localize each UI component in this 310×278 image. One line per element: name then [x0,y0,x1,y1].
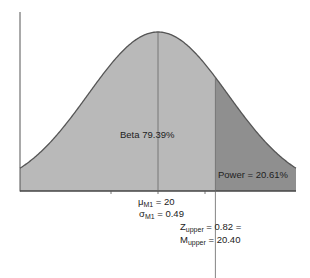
beta-label: Beta 79.39% [120,130,174,140]
power-label: Power = 20.61% [218,170,288,180]
mean-label: μM1 = 20 [138,197,175,208]
sd-label: σM1 = 0.49 [139,209,184,220]
m-upper-label: Mupper = 20.40 [180,235,240,246]
z-upper-label: Zupper = 0.82 = [180,222,241,233]
